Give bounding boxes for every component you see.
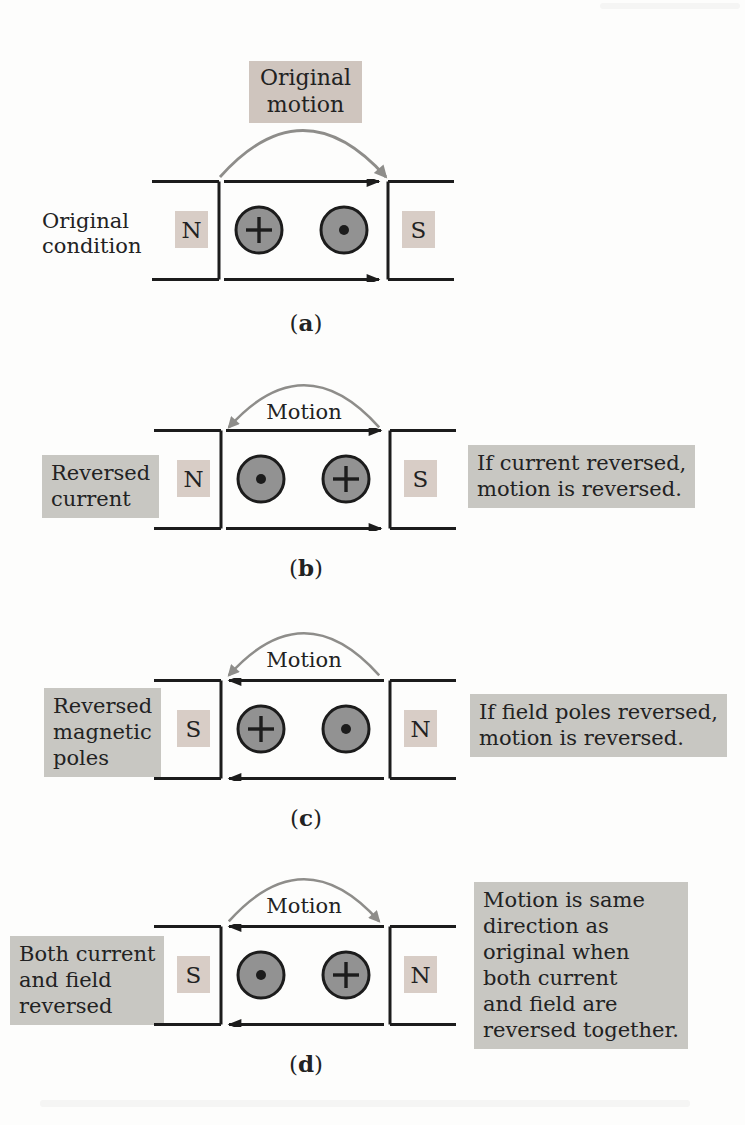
- side-label: Reversed current: [42, 455, 159, 518]
- note-box: Motion is same direction as original whe…: [474, 882, 688, 1049]
- motion-arrow-arc: [212, 118, 394, 182]
- scan-smudge: [40, 1100, 690, 1107]
- left-pole-letter: S: [186, 716, 202, 742]
- panel-caption: (c): [276, 804, 336, 831]
- note-box: If field poles reversed, motion is rever…: [470, 694, 727, 757]
- panel-caption: (b): [276, 554, 336, 581]
- motion-label: Motion: [254, 648, 354, 672]
- original-motion-label: Original motion: [249, 61, 362, 123]
- right-pole-letter: S: [411, 217, 427, 243]
- side-label: Original condition: [42, 209, 162, 259]
- left-conductor: [238, 952, 284, 998]
- right-conductor: [323, 952, 369, 998]
- note-box: If current reversed, motion is reversed.: [468, 445, 695, 508]
- right-conductor: [323, 706, 369, 752]
- magnet-assembly: N: [152, 428, 458, 531]
- current-out-of-page-icon: [341, 724, 351, 734]
- current-out-of-page-icon: [339, 225, 349, 235]
- current-out-of-page-icon: [256, 970, 266, 980]
- right-pole-letter: N: [410, 716, 430, 742]
- scan-smudge: [600, 3, 740, 9]
- panel-caption: (d): [276, 1050, 336, 1077]
- right-conductor: [323, 456, 369, 502]
- left-conductor: [238, 456, 284, 502]
- left-conductor: [238, 706, 284, 752]
- magnet-assembly: S: [152, 924, 458, 1027]
- side-label: Reversed magnetic poles: [44, 688, 161, 777]
- figure: Original motion Original condition N: [0, 0, 745, 1125]
- magnet-assembly: S: [152, 678, 458, 781]
- left-pole-letter: S: [186, 962, 202, 988]
- current-out-of-page-icon: [256, 474, 266, 484]
- left-pole-letter: N: [183, 466, 203, 492]
- motion-label: Motion: [254, 400, 354, 424]
- left-conductor: [236, 207, 282, 253]
- right-pole-letter: S: [413, 466, 429, 492]
- panel-caption: (a): [276, 309, 336, 336]
- magnet-assembly: N: [150, 179, 456, 282]
- motion-label: Motion: [254, 894, 354, 918]
- right-pole-letter: N: [410, 962, 430, 988]
- right-conductor: [321, 207, 367, 253]
- side-label: Both current and field reversed: [10, 936, 164, 1025]
- left-pole-letter: N: [181, 217, 201, 243]
